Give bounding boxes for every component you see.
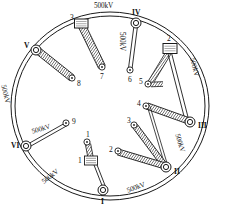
voltage-label-top: 500kV (94, 3, 113, 10)
terminal-label-9: 9 (72, 118, 76, 126)
terminal-node-6[interactable] (127, 67, 133, 73)
terminal-label-2: 2 (109, 146, 113, 154)
terminal-label-5: 5 (139, 78, 143, 86)
bay-1-box-label: 1 (78, 157, 82, 165)
ring-node-label-III: III (198, 122, 207, 130)
ring-node-label-3: 3 (70, 14, 74, 22)
ring-bus-diagram (0, 0, 225, 218)
terminal-node-9[interactable] (63, 120, 69, 126)
terminal-label-6: 6 (128, 76, 132, 84)
ring-node-label-V: V (24, 42, 29, 50)
terminal-label-4: 4 (137, 100, 141, 108)
branch-2-to-III (168, 53, 189, 120)
ring-node-II[interactable] (161, 162, 171, 172)
terminal-node-3[interactable] (131, 122, 137, 128)
branch-box-to-I (94, 164, 106, 188)
terminal-node-8[interactable] (69, 75, 75, 81)
terminal-node-5[interactable] (145, 81, 151, 87)
ring-node-I[interactable] (98, 185, 108, 195)
branch-1-to-box (85, 144, 93, 158)
terminal-label-3: 3 (127, 117, 131, 125)
ring-node-IV[interactable] (131, 18, 141, 28)
branch-IV-to-6 (128, 24, 137, 69)
ring-node-label-I: I (101, 198, 104, 206)
diagram-canvas: 500kV 500kV 500kV 500kV 500kV 500kV 500k… (0, 0, 225, 218)
terminal-node-2[interactable] (115, 148, 121, 154)
ring-node-2[interactable] (163, 44, 177, 54)
ring-node-label-II: II (174, 168, 180, 176)
terminal-node-1[interactable] (84, 139, 90, 145)
terminal-node-7[interactable] (99, 64, 105, 70)
ring-node-label-VI: VI (11, 142, 19, 150)
branch-3-to-7 (78, 22, 106, 68)
branch-2-to-5 (147, 51, 172, 87)
bay-1-box[interactable] (85, 156, 98, 165)
terminal-label-8: 8 (77, 80, 81, 88)
terminal-label-1: 1 (86, 131, 90, 139)
ring-node-V[interactable] (31, 45, 41, 55)
terminal-label-7: 7 (100, 73, 104, 81)
ring-node-label-IV: IV (132, 9, 140, 17)
ring-node-3[interactable] (75, 19, 89, 28)
ring-node-label-2: 2 (167, 35, 171, 43)
ring-node-III[interactable] (185, 117, 195, 127)
ring-node-VI[interactable] (21, 141, 31, 151)
terminal-node-4[interactable] (143, 103, 149, 109)
voltage-label-iv-to-6: 500kV (118, 32, 125, 51)
